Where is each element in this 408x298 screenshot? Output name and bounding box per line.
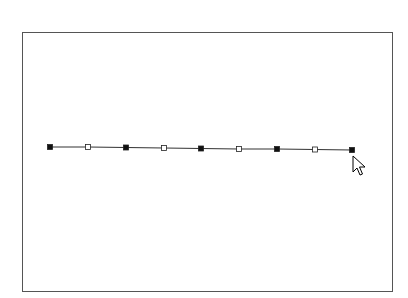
vertex-handle[interactable] xyxy=(48,145,53,150)
midpoint-handle[interactable] xyxy=(313,147,318,152)
polyline-overlay xyxy=(0,0,408,298)
vertex-handles xyxy=(48,145,355,153)
vertex-handle[interactable] xyxy=(350,148,355,153)
vertex-handle[interactable] xyxy=(124,145,129,150)
midpoint-handle[interactable] xyxy=(86,145,91,150)
vertex-handle[interactable] xyxy=(275,147,280,152)
midpoint-handle[interactable] xyxy=(162,146,167,151)
vertex-handle[interactable] xyxy=(199,146,204,151)
midpoint-handle[interactable] xyxy=(237,147,242,152)
arrow-pointer-icon xyxy=(353,156,365,175)
